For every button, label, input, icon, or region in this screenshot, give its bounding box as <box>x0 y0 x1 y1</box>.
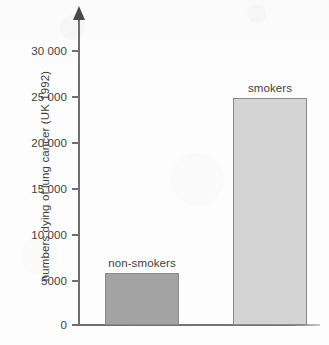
y-axis-tick-label-0: 0 <box>61 319 68 331</box>
y-axis-tick-30000 <box>72 50 80 52</box>
y-axis-tick-20000 <box>72 142 80 144</box>
y-axis-tick-15000 <box>72 188 80 190</box>
y-axis-tick-0 <box>72 324 80 326</box>
bar-smokers <box>233 98 307 325</box>
bar-label-smokers: smokers <box>223 82 317 94</box>
y-axis-tick-10000 <box>72 234 80 236</box>
bar-non-smokers <box>105 273 179 325</box>
bar-chart-figure: 30 000 25 000 20 000 15 000 10 000 5000 … <box>0 0 329 345</box>
y-axis-tick-5000 <box>72 280 80 282</box>
y-axis-tick-25000 <box>72 96 80 98</box>
y-axis-arrow-icon <box>73 6 85 20</box>
bar-label-non-smokers: non-smokers <box>95 257 189 269</box>
y-axis-title: numbers dying of lung cancer (UK 1992) <box>39 46 51 306</box>
